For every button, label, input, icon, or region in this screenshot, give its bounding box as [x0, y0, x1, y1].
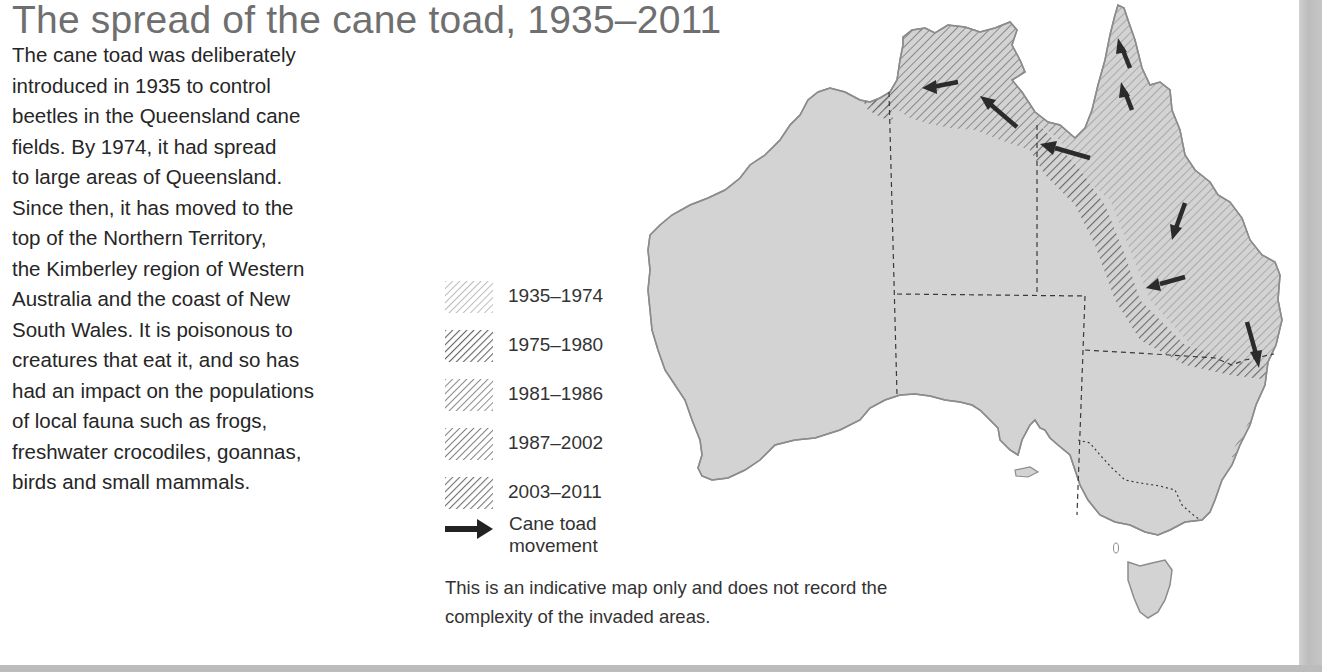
legend-item-1975-1980: 1975–1980 — [445, 328, 685, 377]
hatch-swatch-icon — [445, 477, 493, 509]
kangaroo-island — [1015, 467, 1038, 477]
legend-label: 1975–1980 — [508, 328, 603, 362]
tasmania — [1128, 560, 1172, 618]
hatch-swatch-icon — [445, 330, 493, 362]
page-edge-bottom — [0, 665, 1322, 672]
map-disclaimer: This is an indicative map only and does … — [445, 573, 1005, 631]
arrow-right-icon — [445, 518, 495, 540]
note-line: complexity of the invaded areas. — [445, 602, 1005, 631]
legend-item-1935-1974: 1935–1974 — [445, 279, 685, 328]
hatch-swatch-icon — [445, 379, 493, 411]
legend-item-1981-1986: 1981–1986 — [445, 377, 685, 426]
hatch-swatch-icon — [445, 281, 493, 313]
legend-label: 1981–1986 — [508, 377, 603, 411]
page: The spread of the cane toad, 1935–2011 T… — [0, 0, 1299, 665]
note-line: This is an indicative map only and does … — [445, 573, 1005, 602]
legend-item-movement: Cane toad movement — [445, 514, 685, 544]
legend-item-1987-2002: 1987–2002 — [445, 426, 685, 475]
legend-label: Cane toad movement — [509, 513, 685, 557]
page-edge-right — [1299, 0, 1322, 672]
hatch-swatch-icon — [445, 428, 493, 460]
legend-label: 2003–2011 — [508, 475, 602, 509]
legend-label: 1987–2002 — [508, 426, 603, 460]
map-legend: 1935–1974 1975–1980 — [445, 279, 685, 544]
legend-label: 1935–1974 — [508, 279, 603, 313]
